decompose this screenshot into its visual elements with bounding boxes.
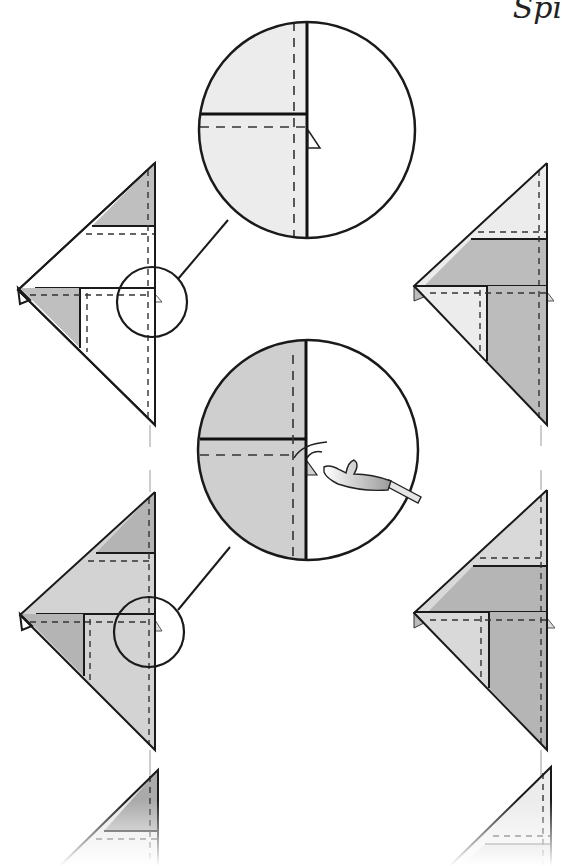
origami-diagram-canvas	[0, 0, 562, 866]
magnifier-a	[190, 20, 427, 250]
magnifier-b	[178, 340, 427, 610]
step-a-diagram	[18, 163, 228, 425]
magnifier-circle-small	[117, 267, 187, 337]
magnifier-connector	[178, 547, 230, 610]
magnifier-connector	[178, 220, 228, 279]
step-b-diagram	[414, 163, 554, 425]
step-d-diagram	[414, 490, 555, 750]
step-c-diagram	[20, 492, 184, 750]
bottom-fade	[0, 800, 562, 866]
